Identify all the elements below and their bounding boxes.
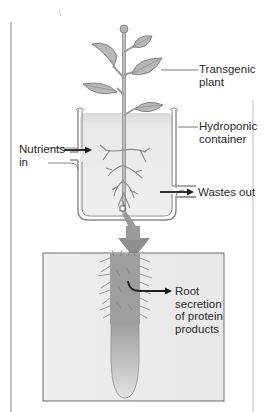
diagram-artwork [0, 0, 265, 412]
label-nutrients-in: Nutrients in [19, 143, 65, 168]
label-hydroponic-container: Hydroponic container [199, 120, 257, 145]
label-root-secretion: Root secretion of protein products [175, 285, 223, 335]
magnified-region-marker [120, 206, 125, 211]
label-wastes-out: Wastes out [198, 186, 255, 199]
label-transgenic-plant: Transgenic plant [199, 63, 255, 88]
magnify-arrow [118, 212, 150, 258]
hydroponic-diagram: Transgenic plant Hydroponic container Nu… [0, 0, 265, 412]
